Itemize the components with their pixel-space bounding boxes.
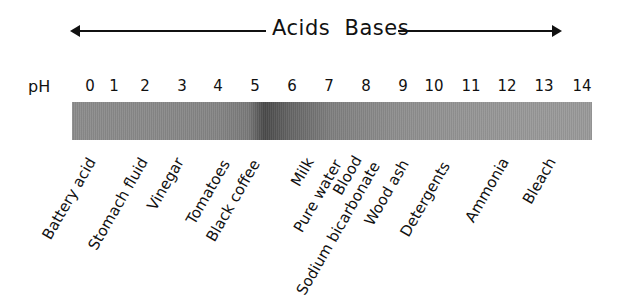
ph-tick: 8: [361, 77, 371, 95]
ph-tick: 3: [177, 77, 187, 95]
substance-label: Battery acid: [38, 155, 99, 243]
ph-tick: 11: [461, 77, 480, 95]
arrow-right-icon: [552, 25, 562, 37]
ph-tick: 7: [324, 77, 334, 95]
ph-tick: 14: [572, 77, 591, 95]
acid-direction-line: [72, 30, 266, 32]
ph-tick: 0: [85, 77, 95, 95]
ph-tick: 9: [398, 77, 408, 95]
diagram-title: Acids Bases: [272, 16, 409, 40]
ph-tick: 2: [140, 77, 150, 95]
ph-tick: 13: [534, 77, 553, 95]
ph-tick: 5: [250, 77, 260, 95]
acids-bases-header: Acids Bases: [60, 14, 600, 44]
ph-tick: 4: [213, 77, 223, 95]
ph-gradient-bar: [72, 102, 592, 140]
ph-axis-label: pH: [28, 77, 50, 96]
base-direction-line: [398, 30, 552, 32]
ph-tick: 1: [109, 77, 119, 95]
ph-tick: 10: [424, 77, 443, 95]
ph-tick: 12: [497, 77, 516, 95]
substance-label: Ammonia: [461, 155, 512, 226]
substance-label: Bleach: [519, 155, 560, 208]
ph-tick: 6: [287, 77, 297, 95]
